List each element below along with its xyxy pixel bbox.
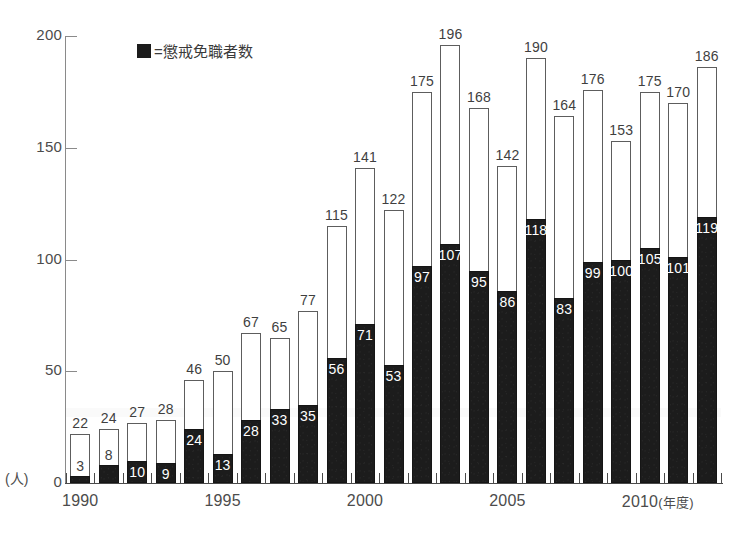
bar-group: 16895 [469, 36, 489, 483]
bar-dark-segment [99, 465, 119, 483]
x-axis-tick [180, 473, 181, 483]
bar-total-value-label: 175 [410, 73, 434, 89]
bar-group: 196107 [440, 36, 460, 483]
x-axis-tick [322, 473, 323, 483]
bar-group: 186119 [697, 36, 717, 483]
bar-total-value-label: 141 [353, 149, 377, 165]
x-axis-tick [636, 473, 637, 483]
bar-dark-value-label: 83 [556, 301, 572, 317]
x-axis-tick [237, 473, 238, 483]
bar-dark-value-label: 13 [215, 457, 231, 473]
bar-total-value-label: 24 [101, 410, 117, 426]
bar-group: 12253 [384, 36, 404, 483]
x-axis-line [65, 483, 723, 484]
bar-dark-value-label: 86 [499, 294, 515, 310]
bar-group: 170101 [668, 36, 688, 483]
x-axis-label: 1995 [183, 492, 263, 510]
x-axis-label-text: 2005 [489, 492, 525, 509]
x-axis-tick [351, 473, 352, 483]
bar-dark-segment [412, 266, 432, 483]
bar-dark-segment [668, 257, 688, 483]
x-axis-tick [465, 473, 466, 483]
bar-total-value-label: 164 [552, 97, 576, 113]
bar-total-value-label: 153 [609, 122, 633, 138]
x-axis-label-text: 1990 [62, 492, 98, 509]
bar-group: 223 [70, 36, 90, 483]
bar-dark-value-label: 119 [695, 220, 718, 236]
bar-dark-value-label: 71 [357, 327, 373, 343]
bar-total-value-label: 175 [638, 73, 662, 89]
bar-total-value-label: 46 [186, 361, 202, 377]
bar-group: 17597 [412, 36, 432, 483]
x-axis-tick [436, 473, 437, 483]
x-axis-tick [94, 473, 95, 483]
y-axis-label-wrap: 100 [10, 260, 62, 261]
bar-dark-segment [611, 260, 631, 484]
x-axis-tick [550, 473, 551, 483]
bar-group: 4624 [184, 36, 204, 483]
bar-group: 16483 [554, 36, 574, 483]
y-axis-label-wrap: 50 [10, 371, 62, 372]
y-axis-label-wrap: 200 [10, 36, 62, 37]
bar-dark-segment [526, 219, 546, 483]
y-axis-label: 200 [18, 26, 62, 43]
x-axis-tick [693, 473, 694, 483]
bar-dark-value-label: 107 [438, 247, 462, 263]
bar-total-value-label: 50 [215, 352, 231, 368]
x-axis-tick [721, 473, 722, 483]
y-axis-label: 150 [18, 138, 62, 155]
bar-group: 153100 [611, 36, 631, 483]
bar-group: 175105 [640, 36, 660, 483]
bar-dark-value-label: 53 [386, 368, 402, 384]
x-axis-label-text: 2010 [622, 493, 658, 510]
bar-dark-value-label: 3 [76, 458, 84, 474]
x-axis-label: 1990 [40, 492, 120, 510]
bar-dark-value-label: 8 [105, 447, 113, 463]
x-axis-label-text: 1995 [204, 492, 240, 509]
bar-total-value-label: 122 [382, 191, 406, 207]
bar-group: 11556 [327, 36, 347, 483]
bar-group: 17699 [583, 36, 603, 483]
bar-total-value-label: 142 [495, 147, 519, 163]
bar-total-value-label: 115 [325, 207, 348, 223]
x-axis-tick [522, 473, 523, 483]
bar-total-value-label: 28 [158, 401, 174, 417]
bar-total-value-label: 67 [243, 314, 259, 330]
x-axis-tick [493, 473, 494, 483]
bar-dark-value-label: 101 [666, 260, 690, 276]
bar-dark-segment [355, 324, 375, 483]
bar-group: 6728 [241, 36, 261, 483]
bar-dark-value-label: 95 [471, 274, 487, 290]
bar-total-value-label: 176 [581, 71, 605, 87]
bar-dark-segment [70, 476, 90, 483]
bar-dark-value-label: 97 [414, 269, 430, 285]
bar-dark-segment [640, 248, 660, 483]
bar-total-value-label: 190 [524, 39, 548, 55]
y-axis-label-wrap: 150 [10, 148, 62, 149]
bar-group: 289 [156, 36, 176, 483]
bar-dark-segment [583, 262, 603, 483]
x-axis-label: 2000 [325, 492, 405, 510]
bar-total-value-label: 27 [129, 404, 145, 420]
bar-total-value-label: 65 [272, 319, 288, 335]
x-axis-tick [607, 473, 608, 483]
y-axis-label: 100 [18, 250, 62, 267]
bar-dark-value-label: 56 [329, 361, 345, 377]
bar-dark-segment [440, 244, 460, 483]
bar-group: 5013 [213, 36, 233, 483]
bar-dark-value-label: 99 [585, 265, 601, 281]
x-axis-label: 2005 [467, 492, 547, 510]
bar-total-value-label: 77 [300, 292, 316, 308]
x-axis-tick [579, 473, 580, 483]
bar-dark-segment [497, 291, 517, 483]
bar-dark-value-label: 35 [300, 408, 316, 424]
chart-container: =懲戒免職者数 050100150200 (人) 223248271028946… [0, 0, 733, 539]
x-axis-tick [265, 473, 266, 483]
bar-group: 14286 [497, 36, 517, 483]
x-axis-tick [66, 473, 67, 483]
y-axis-label: 50 [18, 361, 62, 378]
bar-dark-segment [697, 217, 717, 483]
y-axis-unit: (人) [5, 468, 28, 488]
bar-dark-value-label: 100 [609, 263, 633, 279]
x-axis-tick [123, 473, 124, 483]
